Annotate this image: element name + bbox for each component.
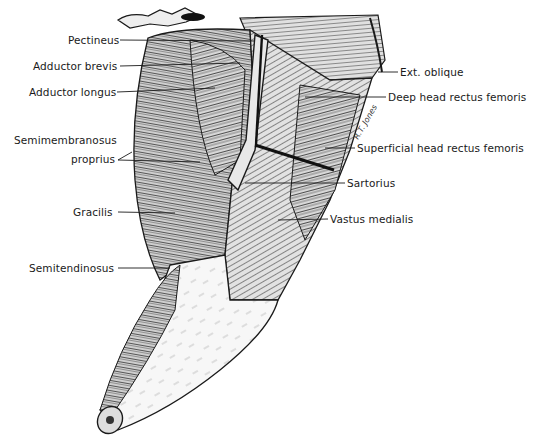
label-semimembranosus: Semimembranosus <box>14 134 117 146</box>
label-pectineus: Pectineus <box>68 34 119 46</box>
label-deep-head-rectus-femoris: Deep head rectus femoris <box>388 91 526 103</box>
anatomy-figure: R.T. Jones Pectineus Adductor brevis Add… <box>0 0 536 439</box>
obturator-foramen <box>181 13 205 21</box>
label-proprius: proprius <box>71 153 115 165</box>
label-adductor-longus: Adductor longus <box>29 86 116 98</box>
label-sartorius: Sartorius <box>347 177 395 189</box>
label-vastus-medialis: Vastus medialis <box>330 213 413 225</box>
label-adductor-brevis: Adductor brevis <box>33 60 117 72</box>
label-ext-oblique: Ext. oblique <box>400 66 464 78</box>
bone-marrow <box>106 416 114 424</box>
label-gracilis: Gracilis <box>73 206 113 218</box>
label-superficial-head-rectus-femoris: Superficial head rectus femoris <box>357 142 524 154</box>
label-semitendinosus: Semitendinosus <box>29 262 114 274</box>
